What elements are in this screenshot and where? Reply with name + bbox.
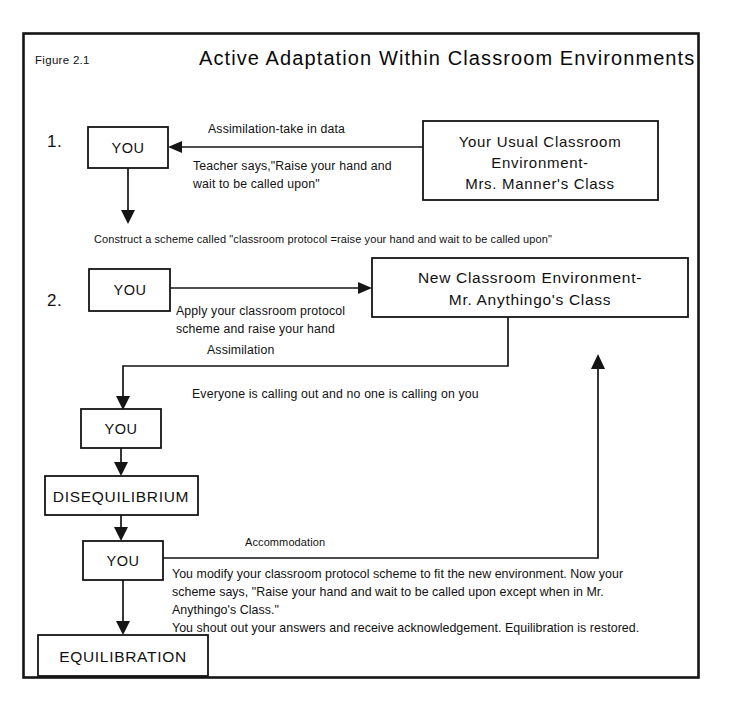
label-everyone-calling-out: Everyone is calling out and no one is ca… — [192, 387, 479, 401]
step-number-1: 1. — [47, 132, 62, 151]
node-you-2-label: YOU — [113, 282, 146, 298]
arrow-you4-to-equilibration — [116, 580, 130, 635]
figure-root: Figure 2.1 Active Adaptation Within Clas… — [0, 0, 736, 720]
node-you-4-label: YOU — [106, 553, 139, 569]
arrow-apply-scheme — [170, 282, 372, 294]
usual-environment-line-3: Mrs. Manner's Class — [465, 175, 615, 192]
usual-environment-line-2: Environment- — [491, 154, 589, 171]
figure-label: Figure 2.1 — [35, 54, 90, 66]
label-accommodation: Accommodation — [245, 536, 325, 548]
arrow-you3-to-disequilibrium — [114, 448, 128, 476]
node-disequilibrium-label: DISEQUILIBRIUM — [53, 488, 189, 505]
arrow-accommodation — [163, 354, 605, 558]
page-title: Active Adaptation Within Classroom Envir… — [199, 47, 695, 69]
label-teacher-says-line-1: Teacher says,"Raise your hand and — [193, 159, 392, 173]
node-equilibration-label: EQUILIBRATION — [59, 648, 187, 665]
label-assimilation-take-in-data: Assimilation-take in data — [208, 122, 345, 136]
label-apply-scheme-line-1: Apply your classroom protocol — [176, 304, 345, 318]
node-you-1-label: YOU — [111, 140, 144, 156]
paragraph-line-2: scheme says, "Raise your hand and wait t… — [172, 585, 604, 599]
node-new-environment — [372, 258, 688, 317]
node-you-3-label: YOU — [104, 421, 137, 437]
usual-environment-line-1: Your Usual Classroom — [459, 133, 622, 150]
paragraph-line-1: You modify your classroom protocol schem… — [172, 567, 623, 581]
label-teacher-says-line-2: wait to be called upon" — [192, 177, 320, 191]
arrow-you1-down — [121, 168, 135, 224]
new-environment-line-2: Mr. Anythingo's Class — [449, 291, 611, 308]
step-number-2: 2. — [47, 291, 62, 310]
new-environment-line-1: New Classroom Environment- — [418, 269, 642, 286]
arrow-disequilibrium-to-you4 — [114, 515, 128, 541]
flowchart-diagram: Figure 2.1 Active Adaptation Within Clas… — [0, 0, 736, 720]
paragraph-line-3: Anythingo's Class." — [172, 603, 279, 617]
paragraph-line-4: You shout out your answers and receive a… — [172, 621, 639, 635]
label-assimilation: Assimilation — [207, 343, 274, 357]
label-construct-scheme: Construct a scheme called "classroom pro… — [94, 233, 552, 245]
arrow-assimilation-take-in-data — [168, 141, 423, 153]
label-apply-scheme-line-2: scheme and raise your hand — [176, 322, 335, 336]
